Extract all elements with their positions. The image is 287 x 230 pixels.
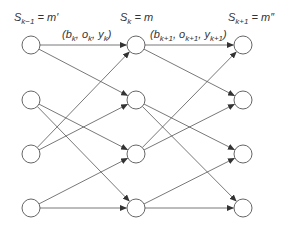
transition-edge [144,158,234,204]
state-node [234,145,252,163]
state-node [22,36,40,54]
trellis-diagram: Sk−1 = m′Sk = mSk+1 = m″ (bk, ok, yk)(bk… [0,0,287,230]
state-node [22,145,40,163]
state-labels: Sk−1 = m′Sk = mSk+1 = m″ [14,11,275,26]
transition-labels: (bk, ok, yk)(bk+1, ok+1, yk+1) [62,28,227,43]
state-label: Sk+1 = m″ [228,11,275,26]
transition-edge [37,106,129,201]
state-node [234,199,252,217]
state-node [22,91,40,109]
transition-edges [37,45,236,208]
state-node [127,36,145,54]
state-label: Sk = m [120,11,153,26]
transition-edge [142,52,236,148]
state-node [127,199,145,217]
state-node [234,36,252,54]
state-node [22,199,40,217]
state-node [127,91,145,109]
state-node [127,145,145,163]
state-node [234,91,252,109]
transition-edge [142,106,236,201]
transition-edge [37,52,129,148]
transition-label: (bk, ok, yk) [62,28,112,43]
transition-edge [144,49,235,96]
state-label: Sk−1 = m′ [14,11,59,26]
transition-label: (bk+1, ok+1, yk+1) [150,28,227,43]
transition-edge [39,49,128,95]
transition-edge [39,158,128,204]
